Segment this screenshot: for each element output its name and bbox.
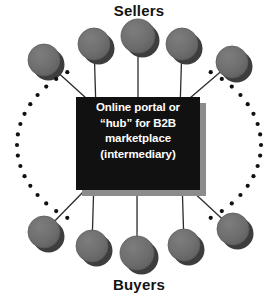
right-arc-dot-5 xyxy=(246,184,250,188)
buyer-node-3 xyxy=(120,236,154,270)
left-arc-dot-4 xyxy=(35,193,39,197)
seller-node-1 xyxy=(28,44,60,76)
buyer-node-5 xyxy=(217,213,249,245)
right-arc-dot-12 xyxy=(251,112,255,116)
left-arc-dot-16 xyxy=(54,77,58,81)
buyer-node-2 xyxy=(76,230,108,262)
left-arc-dot-2 xyxy=(54,209,58,213)
hub-text-line-2: “hub” for B2B xyxy=(76,116,200,132)
left-arc-dot-9 xyxy=(15,143,19,147)
hub-text-line-4: (intermediary) xyxy=(76,147,200,163)
left-arc-dot-5 xyxy=(28,184,32,188)
right-arc-dot-14 xyxy=(238,93,242,97)
right-arc-dot-6 xyxy=(251,174,255,178)
left-arc-dot-10 xyxy=(16,132,20,136)
right-arc-dot-1 xyxy=(209,216,213,220)
left-arc-dot-3 xyxy=(44,201,48,205)
seller-connector-4 xyxy=(180,59,181,98)
left-arc-dot-7 xyxy=(18,164,22,168)
left-arc-dot-15 xyxy=(44,84,48,88)
right-arc-dot-2 xyxy=(220,209,224,213)
buyer-node-1 xyxy=(28,216,60,248)
right-arc-dot-9 xyxy=(259,143,263,147)
sellers-label: Sellers xyxy=(0,3,278,18)
right-arc-dot-4 xyxy=(238,193,242,197)
left-arc-dot-17 xyxy=(65,70,69,74)
right-arc-dot-10 xyxy=(258,132,262,136)
b2b-marketplace-diagram: Sellers Buyers Online portal or “hub” fo… xyxy=(0,0,278,296)
left-arc-dot-11 xyxy=(18,122,22,126)
right-dotted-arc xyxy=(209,70,263,220)
left-arc-dot-8 xyxy=(16,153,20,157)
right-arc-dot-3 xyxy=(230,201,234,205)
right-arc-dot-11 xyxy=(256,122,260,126)
left-arc-dot-14 xyxy=(35,93,39,97)
hub-text-line-1: Online portal or xyxy=(76,100,200,116)
right-arc-dot-13 xyxy=(246,102,250,106)
right-arc-dot-17 xyxy=(209,70,213,74)
left-arc-dot-12 xyxy=(22,112,26,116)
left-arc-dot-13 xyxy=(28,102,32,106)
seller-node-3 xyxy=(121,19,155,53)
hub-box-text: Online portal or “hub” for B2B marketpla… xyxy=(76,100,200,162)
left-dotted-arc xyxy=(15,70,69,220)
hub-text-line-3: marketplace xyxy=(76,131,200,147)
seller-node-2 xyxy=(78,28,110,60)
right-arc-dot-16 xyxy=(220,77,224,81)
buyers-label: Buyers xyxy=(0,277,278,292)
right-arc-dot-15 xyxy=(230,84,234,88)
left-arc-dot-1 xyxy=(65,216,69,220)
right-arc-dot-7 xyxy=(256,164,260,168)
buyer-connector-1 xyxy=(54,189,86,221)
right-arc-dot-8 xyxy=(258,153,262,157)
seller-node-4 xyxy=(166,28,198,60)
seller-connector-5 xyxy=(190,72,221,98)
buyer-node-4 xyxy=(168,229,200,261)
left-arc-dot-6 xyxy=(22,174,26,178)
seller-node-5 xyxy=(216,46,248,78)
seller-connector-2 xyxy=(94,59,95,98)
